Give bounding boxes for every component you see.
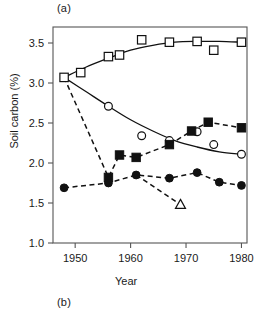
data-point-filled-square	[115, 151, 123, 159]
data-markers	[60, 36, 246, 209]
data-point-open-square	[210, 46, 218, 54]
data-point-open-square	[165, 38, 173, 46]
y-tick-label: 1.0	[29, 237, 44, 249]
data-point-filled-circle	[238, 182, 246, 190]
data-point-open-square	[60, 73, 68, 81]
y-axis-ticks: 1.01.52.02.53.03.5	[29, 37, 53, 249]
scatter-plot: 1.01.52.02.53.03.5 1950196019701980	[0, 0, 269, 315]
y-tick-label: 1.5	[29, 197, 44, 209]
y-tick-label: 3.5	[29, 37, 44, 49]
fit-curves	[64, 41, 241, 204]
data-point-open-square	[77, 68, 85, 76]
data-point-open-square	[115, 51, 123, 59]
data-point-filled-circle	[193, 169, 201, 177]
data-point-open-triangle	[175, 199, 185, 208]
data-point-open-circle	[105, 102, 113, 110]
data-point-filled-circle	[60, 184, 68, 192]
x-tick-label: 1980	[229, 252, 253, 264]
data-point-open-circle	[238, 150, 246, 158]
data-point-open-square	[137, 36, 145, 44]
data-point-filled-square	[187, 127, 195, 135]
trend-line-filled-squares	[64, 77, 241, 177]
data-point-open-square	[237, 38, 245, 46]
x-tick-label: 1970	[174, 252, 198, 264]
data-point-filled-square	[237, 124, 245, 132]
data-point-filled-square	[165, 140, 173, 148]
y-tick-label: 3.0	[29, 77, 44, 89]
data-point-filled-circle	[215, 178, 223, 186]
x-tick-label: 1960	[118, 252, 142, 264]
data-point-open-circle	[210, 141, 218, 149]
data-point-filled-square	[204, 118, 212, 126]
data-point-filled-circle	[166, 174, 174, 182]
x-tick-label: 1950	[63, 252, 87, 264]
data-point-open-square	[193, 37, 201, 45]
trend-line-open-triangle	[136, 175, 180, 205]
data-point-filled-square	[132, 153, 140, 161]
x-axis-ticks: 1950196019701980	[63, 243, 254, 264]
figure-panel-a: (a) (b) Soil carbon (%) Year 1.01.52.02.…	[0, 0, 269, 315]
data-point-open-square	[104, 52, 112, 60]
data-point-filled-circle	[132, 171, 140, 179]
y-tick-label: 2.5	[29, 117, 44, 129]
plot-frame	[53, 27, 247, 243]
data-point-filled-circle	[105, 179, 113, 187]
y-tick-label: 2.0	[29, 157, 44, 169]
data-point-open-circle	[138, 132, 146, 140]
